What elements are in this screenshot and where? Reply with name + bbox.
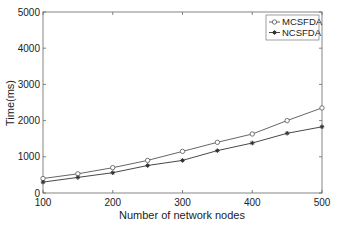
series-lines bbox=[41, 106, 324, 185]
asterisk-marker-icon bbox=[145, 163, 149, 167]
legend-label: NCSFDA bbox=[282, 27, 322, 38]
asterisk-marker-icon bbox=[320, 125, 324, 129]
circle-marker-icon bbox=[250, 132, 254, 136]
circle-marker-icon bbox=[145, 158, 149, 162]
asterisk-marker-icon bbox=[215, 148, 219, 152]
y-tick-label: 5000 bbox=[18, 7, 41, 18]
asterisk-marker-icon bbox=[111, 171, 115, 175]
y-tick-label: 1000 bbox=[18, 151, 41, 162]
asterisk-marker-icon bbox=[180, 158, 184, 162]
x-axis-label: Number of network nodes bbox=[119, 209, 245, 221]
circle-marker-icon bbox=[180, 149, 184, 153]
asterisk-marker-icon bbox=[272, 30, 276, 34]
y-tick-label: 4000 bbox=[18, 43, 41, 54]
y-axis-label: Time(ms) bbox=[4, 80, 16, 126]
asterisk-marker-icon bbox=[76, 175, 80, 179]
x-tick-label: 200 bbox=[104, 197, 121, 208]
asterisk-marker-icon bbox=[41, 180, 45, 184]
x-tick-label: 500 bbox=[314, 197, 331, 208]
series-ncsfda bbox=[41, 125, 324, 185]
legend: MCSFDANCSFDA bbox=[266, 15, 323, 40]
series-mcsfda bbox=[41, 106, 324, 181]
x-tick-label: 400 bbox=[244, 197, 261, 208]
line-chart: 010002000300040005000 100200300400500 Nu… bbox=[0, 0, 337, 229]
asterisk-marker-icon bbox=[285, 131, 289, 135]
x-tick-label: 300 bbox=[174, 197, 191, 208]
circle-marker-icon bbox=[272, 20, 276, 24]
y-tick-label: 2000 bbox=[18, 115, 41, 126]
legend-label: MCSFDA bbox=[282, 16, 323, 27]
y-tick-label: 3000 bbox=[18, 79, 41, 90]
circle-marker-icon bbox=[320, 106, 324, 110]
circle-marker-icon bbox=[215, 140, 219, 144]
circle-marker-icon bbox=[285, 118, 289, 122]
circle-marker-icon bbox=[111, 165, 115, 169]
x-tick-label: 100 bbox=[35, 197, 52, 208]
asterisk-marker-icon bbox=[250, 141, 254, 145]
